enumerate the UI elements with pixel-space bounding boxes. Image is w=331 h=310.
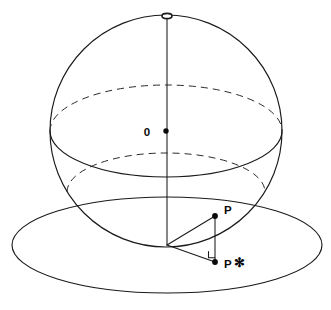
label-origin: 0 — [144, 126, 151, 138]
figure-canvas: 0 P P ✻ — [0, 0, 331, 310]
sphere-plane-intersection-back-arc-dashed — [67, 153, 265, 192]
triangle-origin-to-p — [167, 216, 215, 245]
sphere-center-dot — [163, 128, 168, 133]
point-p-dot — [212, 213, 218, 219]
label-point-p-star: P — [224, 258, 232, 270]
equator-back-arc-dashed — [50, 85, 282, 131]
label-point-p-star-asterisk: ✻ — [234, 255, 245, 270]
north-pole-ellipse-icon — [162, 13, 172, 18]
sphere-plane-diagram: 0 P P ✻ — [0, 0, 331, 310]
label-point-p: P — [224, 204, 232, 216]
point-p-star-dot — [212, 259, 218, 265]
right-angle-marker-icon — [209, 252, 216, 258]
triangle-pstar-to-origin — [167, 245, 215, 262]
